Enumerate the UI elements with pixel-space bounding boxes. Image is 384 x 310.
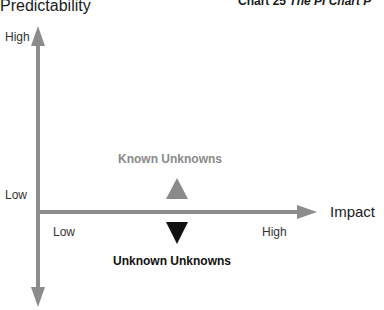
triangle-up-icon bbox=[166, 178, 188, 199]
y-axis bbox=[31, 26, 45, 307]
unknown-unknowns-label: Unknown Unknowns bbox=[113, 254, 231, 268]
x-axis bbox=[38, 205, 317, 219]
known-unknowns-label: Known Unknowns bbox=[118, 152, 222, 166]
triangle-down-icon bbox=[166, 222, 188, 244]
arrow-up-icon bbox=[31, 26, 45, 46]
arrow-down-icon bbox=[31, 287, 45, 307]
arrow-right-icon bbox=[297, 205, 317, 219]
